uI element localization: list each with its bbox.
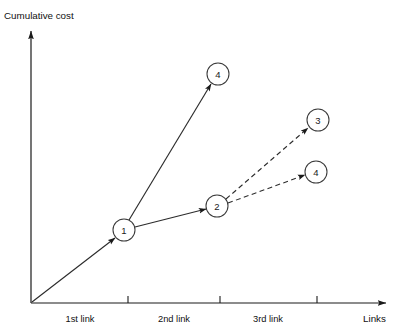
node-2-label: 2 <box>214 201 219 212</box>
x-tick-label-2nd-link: 2nd link <box>158 314 190 324</box>
x-tick-label-1st-link: 1st link <box>66 314 95 324</box>
cumulative-cost-diagram: 1 2 4 3 4 Cumulative cost Links 1st <box>0 0 402 336</box>
edge-node-2-to-node-right-4 <box>228 175 305 203</box>
diagram-canvas: 1 2 4 3 4 Cumulative cost Links 1st <box>0 0 402 336</box>
node-1[interactable]: 1 <box>113 219 135 241</box>
edge-node-2-to-node-3 <box>226 128 308 199</box>
axis-labels-group: Cumulative cost Links 1st link 2nd link … <box>4 10 386 324</box>
node-top-4[interactable]: 4 <box>207 63 229 85</box>
x-tick-label-3rd-link: 3rd link <box>253 314 283 324</box>
y-axis-label: Cumulative cost <box>4 10 74 21</box>
edge-node-1-to-node-2 <box>135 209 206 227</box>
x-axis <box>31 296 386 303</box>
node-right-4[interactable]: 4 <box>305 161 327 183</box>
edge-origin-to-node-1 <box>32 238 115 302</box>
edges-group <box>32 84 308 302</box>
x-axis-label: Links <box>363 313 386 324</box>
node-top-4-label: 4 <box>215 69 220 80</box>
node-2[interactable]: 2 <box>206 195 228 217</box>
node-right-4-label: 4 <box>313 167 318 178</box>
node-1-label: 1 <box>121 225 126 236</box>
node-3[interactable]: 3 <box>307 109 329 131</box>
nodes-group: 1 2 4 3 4 <box>113 63 329 241</box>
node-3-label: 3 <box>315 115 320 126</box>
edge-node-1-to-node-top-4 <box>129 84 211 220</box>
